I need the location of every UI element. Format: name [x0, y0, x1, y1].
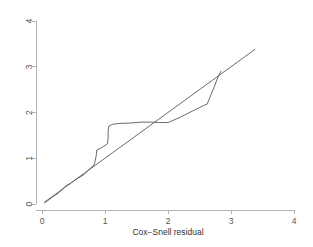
cox-snell-residual-plot: 0123401234 Cox−Snell residual [0, 0, 313, 247]
x-tick-label-1: 1 [103, 216, 108, 226]
x-tick-label-2: 2 [166, 216, 171, 226]
y-tick-label-4: 4 [24, 18, 34, 23]
x-tick-label-3: 3 [229, 216, 234, 226]
y-tick-label-2: 2 [24, 110, 34, 115]
y-tick-label-3: 3 [24, 64, 34, 69]
x-axis-title: Cox−Snell residual [132, 227, 203, 237]
chart-canvas: 0123401234 Cox−Snell residual [0, 0, 313, 247]
x-tick-label-0: 0 [40, 216, 45, 226]
y-tick-label-0: 0 [24, 201, 34, 206]
x-tick-label-4: 4 [292, 216, 297, 226]
y-tick-label-1: 1 [24, 156, 34, 161]
